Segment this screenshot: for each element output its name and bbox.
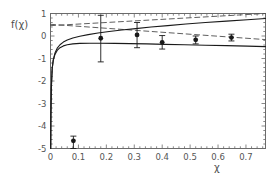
y-tick-labels: 10-1-2-3-4-5	[38, 9, 46, 154]
curve-solid-lower	[51, 43, 266, 148]
y-axis-label: f(χ)	[11, 20, 28, 29]
x-tick-label: 0	[48, 152, 53, 162]
data-point-marker	[193, 37, 198, 42]
x-tick-label: 0.5	[183, 152, 197, 162]
y-tick-label: 0	[41, 31, 46, 41]
data-point-marker	[160, 40, 165, 45]
y-tick-label: -4	[38, 121, 46, 131]
chart-figure: 00.10.20.30.40.50.60.7 10-1-2-3-4-5 f(χ)…	[0, 0, 277, 185]
curve-dashed-upper	[51, 14, 266, 26]
x-tick-label: 0.6	[211, 152, 225, 162]
y-tick-label: -5	[38, 144, 46, 154]
x-tick-label: 0.1	[72, 152, 86, 162]
x-tick-label: 0.2	[100, 152, 114, 162]
data-point-marker	[229, 35, 234, 40]
data-points	[71, 32, 234, 143]
y-tick-label: -1	[38, 54, 46, 64]
x-axis-label: χ	[214, 163, 220, 172]
data-point-marker	[135, 32, 140, 37]
plot-canvas: 00.10.20.30.40.50.60.7 10-1-2-3-4-5	[0, 0, 277, 185]
y-tick-label: -2	[38, 76, 46, 86]
error-bars	[70, 15, 234, 148]
x-tick-label: 0.3	[128, 152, 142, 162]
x-tick-labels: 00.10.20.30.40.50.60.7	[48, 152, 253, 162]
data-point-marker	[71, 138, 76, 143]
data-point-marker	[98, 36, 103, 41]
x-tick-label: 0.7	[239, 152, 253, 162]
x-tick-label: 0.4	[155, 152, 169, 162]
y-tick-label: 1	[41, 9, 46, 19]
y-tick-label: -3	[38, 99, 46, 109]
